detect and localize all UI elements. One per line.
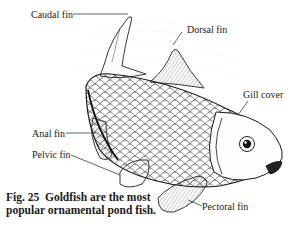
- label-pectoral-fin: Pectoral fin: [202, 201, 248, 212]
- label-caudal-fin: Caudal fin: [31, 9, 73, 20]
- label-anal-fin: Anal fin: [32, 128, 65, 139]
- label-pelvic-fin: Pelvic fin: [32, 149, 71, 160]
- label-dorsal-fin: Dorsal fin: [187, 24, 227, 35]
- label-gill-cover: Gill cover: [243, 89, 283, 100]
- figure-caption: Fig. 25 Goldfish are the most popular or…: [6, 191, 156, 217]
- figure-number: Fig. 25: [6, 191, 39, 203]
- caudal-fin-shape: [100, 17, 146, 78]
